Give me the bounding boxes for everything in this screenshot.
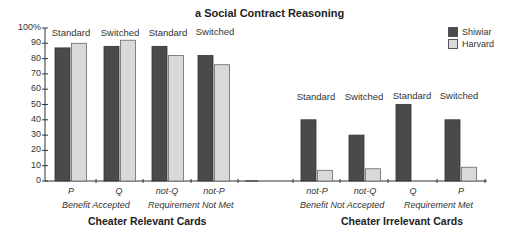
y-tick-label: 10 xyxy=(13,160,41,170)
y-tick-label: 100% xyxy=(13,22,41,32)
card-label: P xyxy=(49,186,93,196)
condition-label: Switched xyxy=(342,91,386,102)
bar-harvard xyxy=(318,170,333,181)
card-label: not-Q xyxy=(145,186,189,196)
card-label: Q xyxy=(97,186,141,196)
bar-shiwiar xyxy=(445,120,460,181)
condition-label: Standard xyxy=(146,27,190,38)
card-label: not-P xyxy=(192,186,236,196)
legend-item-harvard: Harvard xyxy=(448,39,494,49)
section-label-relevant: Cheater Relevant Cards xyxy=(88,215,206,227)
condition-label: Switched xyxy=(437,90,481,101)
legend-label-shiwiar: Shiwiar xyxy=(462,27,492,37)
bar-harvard xyxy=(215,65,230,181)
bar-shiwiar xyxy=(104,46,119,181)
legend-item-shiwiar: Shiwiar xyxy=(448,27,492,37)
legend-swatch-shiwiar xyxy=(448,27,458,37)
condition-label: Switched xyxy=(193,26,237,37)
bar-shiwiar xyxy=(55,48,70,181)
bar-shiwiar xyxy=(301,120,316,181)
group-label: Requirement Met xyxy=(404,200,473,210)
bar-harvard xyxy=(72,43,87,181)
condition-label: Standard xyxy=(294,91,338,102)
y-tick-label: 50 xyxy=(13,99,41,109)
legend-label-harvard: Harvard xyxy=(462,39,494,49)
bar-harvard xyxy=(366,169,381,181)
y-tick-label: 60 xyxy=(13,83,41,93)
y-tick-label: 70 xyxy=(13,68,41,78)
bar-harvard xyxy=(121,40,136,181)
condition-label: Standard xyxy=(390,90,434,101)
y-tick-label: 40 xyxy=(13,114,41,124)
legend-swatch-harvard xyxy=(448,39,458,49)
card-label: not-P xyxy=(295,186,339,196)
group-label: Benefit Accepted xyxy=(62,200,130,210)
bar-shiwiar xyxy=(349,135,364,181)
y-tick-label: 30 xyxy=(13,129,41,139)
bar-harvard xyxy=(462,167,477,181)
card-label: not-Q xyxy=(343,186,387,196)
y-tick-label: 0 xyxy=(13,175,41,185)
bar-shiwiar xyxy=(396,105,411,182)
y-tick-label: 80 xyxy=(13,53,41,63)
condition-label: Switched xyxy=(98,27,142,38)
condition-label: Standard xyxy=(49,27,93,38)
bar-harvard xyxy=(169,56,184,181)
bar-shiwiar xyxy=(198,56,213,181)
y-tick-label: 20 xyxy=(13,144,41,154)
y-tick-label: 90 xyxy=(13,37,41,47)
card-label: Q xyxy=(391,186,435,196)
section-label-irrelevant: Cheater Irrelevant Cards xyxy=(341,215,463,227)
bar-shiwiar xyxy=(152,46,167,181)
group-label: Benefit Not Accepted xyxy=(300,200,384,210)
group-label: Requirement Not Met xyxy=(148,200,234,210)
card-label: P xyxy=(439,186,483,196)
